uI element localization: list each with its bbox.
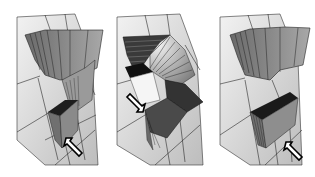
surface-render-middle: [105, 0, 210, 177]
surface-render-left: [0, 0, 105, 177]
panel-left: [0, 0, 105, 177]
panel-middle: [105, 0, 210, 177]
surface-render-right: [210, 0, 315, 177]
panel-right: [210, 0, 315, 177]
